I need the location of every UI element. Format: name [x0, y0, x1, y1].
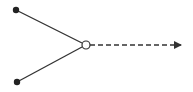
edge-bottom-to-hub — [17, 47, 82, 82]
input-node-top-dot — [13, 7, 19, 13]
hub-open-circle — [82, 41, 90, 49]
merge-diagram — [0, 0, 193, 92]
input-node-bottom-dot — [14, 79, 20, 85]
edge-top-to-hub — [16, 10, 82, 43]
